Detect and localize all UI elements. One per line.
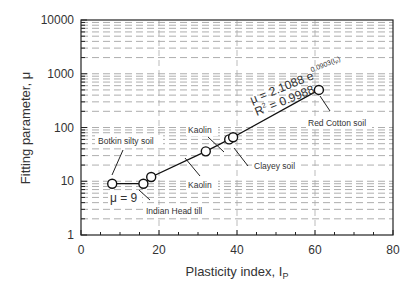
- data-point: [229, 133, 238, 142]
- x-tick-label: 60: [308, 243, 322, 257]
- y-tick-label: 10: [61, 174, 75, 188]
- y-tick-label: 1000: [47, 67, 74, 81]
- data-point: [201, 147, 210, 156]
- label-mu9: μ = 9: [110, 191, 138, 205]
- data-point: [108, 179, 117, 188]
- x-tick-label: 80: [386, 243, 400, 257]
- label-clayey: Clayey soil: [254, 161, 295, 171]
- y-tick-label: 10000: [41, 13, 75, 27]
- x-tick-label: 40: [230, 243, 244, 257]
- y-tick-label: 1: [67, 228, 74, 242]
- data-point: [314, 85, 323, 94]
- data-point: [139, 179, 148, 188]
- chart: 020406080 110100100010000 Plasticity ind…: [0, 0, 417, 294]
- fit-equation: μ = 2.1088 e0.0903(IP) R2 = 0.9988: [247, 55, 349, 119]
- y-axis-label: Fitting parameter, μ: [18, 72, 33, 184]
- x-axis-label: Plasticity index, IP: [186, 264, 289, 281]
- y-axis-ticks: 110100100010000: [41, 13, 87, 242]
- label-indian-head: Indian Head till: [146, 206, 202, 216]
- label-kaolin-1: Kaolin: [188, 180, 212, 190]
- x-tick-label: 0: [78, 243, 85, 257]
- label-red-cotton: Red Cotton soil: [308, 118, 366, 128]
- annotations: Botkin silty soil μ = 9 Indian Head till…: [95, 96, 372, 217]
- x-tick-label: 20: [152, 243, 166, 257]
- x-axis-ticks: 020406080: [78, 230, 400, 257]
- data-point: [147, 172, 156, 181]
- y-tick-label: 100: [54, 121, 74, 135]
- label-kaolin-2: Kaolin: [188, 125, 212, 135]
- label-botkin: Botkin silty soil: [98, 136, 154, 146]
